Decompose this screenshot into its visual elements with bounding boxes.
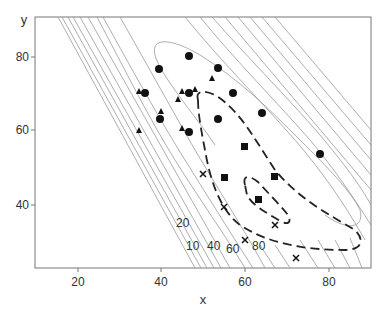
contour-label-80: 80 [252, 239, 266, 253]
circle-marker [316, 150, 324, 158]
circle-marker [185, 89, 193, 97]
y-tick-label: 60 [16, 123, 30, 137]
y-tick-label: 40 [16, 198, 30, 212]
x-tick-label: 40 [154, 275, 168, 289]
contour-label-20: 20 [176, 216, 190, 230]
circle-marker [185, 52, 193, 60]
contour-label-10: 10 [186, 239, 200, 253]
circle-marker [229, 89, 237, 97]
circle-marker [258, 109, 266, 117]
square-marker [255, 196, 262, 203]
circle-marker [155, 65, 163, 73]
circle-marker [185, 128, 193, 136]
y-axis-label: y [21, 12, 28, 27]
contour-label-60: 60 [226, 242, 240, 256]
contour-scatter-chart: 20 10 40 60 80 [0, 0, 387, 317]
y-tick-label: 80 [16, 50, 30, 64]
circle-marker [214, 64, 222, 72]
x-axis-label: x [200, 292, 207, 307]
square-marker [271, 173, 278, 180]
circle-marker [141, 89, 149, 97]
circle-marker [156, 115, 164, 123]
circle-marker [214, 115, 222, 123]
x-tick-label: 60 [238, 275, 252, 289]
contour-label-40: 40 [207, 239, 221, 253]
x-tick-label: 20 [71, 275, 85, 289]
square-marker [241, 143, 248, 150]
square-marker [221, 174, 228, 181]
x-tick-label: 80 [322, 275, 336, 289]
